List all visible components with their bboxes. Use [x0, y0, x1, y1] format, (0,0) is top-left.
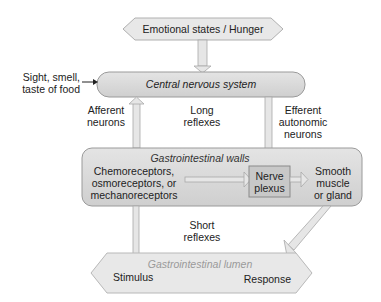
long-reflexes-label-2: reflexes — [170, 116, 234, 128]
sensory-input-line1: Sight, smell, — [0, 71, 80, 83]
effector-line1: Smooth — [308, 165, 358, 177]
gi-lumen-label: Gastrointestinal lumen — [140, 258, 260, 270]
afferent-label-2: neurons — [82, 116, 130, 128]
receptors-line1: Chemoreceptors, — [86, 165, 182, 177]
gi-walls-label: Gastrointestinal walls — [140, 152, 260, 164]
receptors-line3: mechanoreceptors — [86, 189, 182, 201]
efferent-label-1: Efferent — [275, 104, 331, 116]
diagram-canvas — [0, 0, 381, 302]
efferent-label-3: neurons — [275, 128, 331, 140]
afferent-label-1: Afferent — [82, 104, 130, 116]
stimulus-label: Stimulus — [113, 271, 173, 283]
effector-line3: or gland — [308, 189, 358, 201]
short-reflexes-label-1: Short — [170, 219, 234, 231]
response-label: Response — [230, 273, 291, 285]
long-reflexes-label-1: Long — [170, 104, 234, 116]
cns-label: Central nervous system — [97, 78, 305, 90]
short-reflexes-label-2: reflexes — [170, 231, 234, 243]
plexus-line1: Nerve — [249, 170, 290, 182]
receptors-line2: osmoreceptors, or — [86, 177, 182, 189]
emotional-states-label: Emotional states / Hunger — [135, 23, 271, 35]
plexus-line2: plexus — [249, 182, 290, 194]
sensory-input-line2: taste of food — [0, 83, 80, 95]
efferent-label-2: autonomic — [275, 116, 331, 128]
effector-line2: muscle — [308, 177, 358, 189]
